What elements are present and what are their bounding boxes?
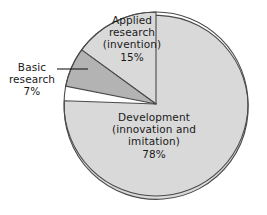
basic-label-line-1: Basic <box>2 61 62 73</box>
pie-chart-figure: Applied research (invention) 15% Basic r… <box>0 0 267 215</box>
applied-label-line-2: research <box>96 26 168 38</box>
basic-label-value: 7% <box>2 85 62 97</box>
applied-label-line-1: Applied <box>96 14 168 26</box>
applied-label-value: 15% <box>96 51 168 63</box>
applied-label-line-3: (invention) <box>96 38 168 50</box>
slice-label-applied-research: Applied research (invention) 15% <box>96 14 168 63</box>
development-label-line-1: Development <box>92 111 216 123</box>
development-label-line-2: (innovation and <box>92 123 216 135</box>
basic-label-line-2: research <box>2 73 62 85</box>
development-label-value: 78% <box>92 148 216 160</box>
slice-label-development: Development (innovation and imitation) 7… <box>92 111 216 160</box>
slice-label-basic-research: Basic research 7% <box>2 61 62 98</box>
development-label-line-3: imitation) <box>92 135 216 147</box>
